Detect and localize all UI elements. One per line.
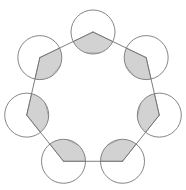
shaded-angle-sectors [27, 32, 160, 161]
shaded-interior-angle-4 [74, 123, 153, 161]
regular-heptagon-figure: Regular heptagon with circles at each ve… [0, 0, 186, 190]
diagram-canvas: Regular heptagon with circles at each ve… [0, 0, 186, 190]
shaded-interior-angle-5 [33, 123, 112, 161]
shaded-interior-angle-3 [129, 68, 159, 153]
shaded-interior-angle-1 [49, 32, 136, 53]
shaded-interior-angle-6 [27, 68, 57, 153]
